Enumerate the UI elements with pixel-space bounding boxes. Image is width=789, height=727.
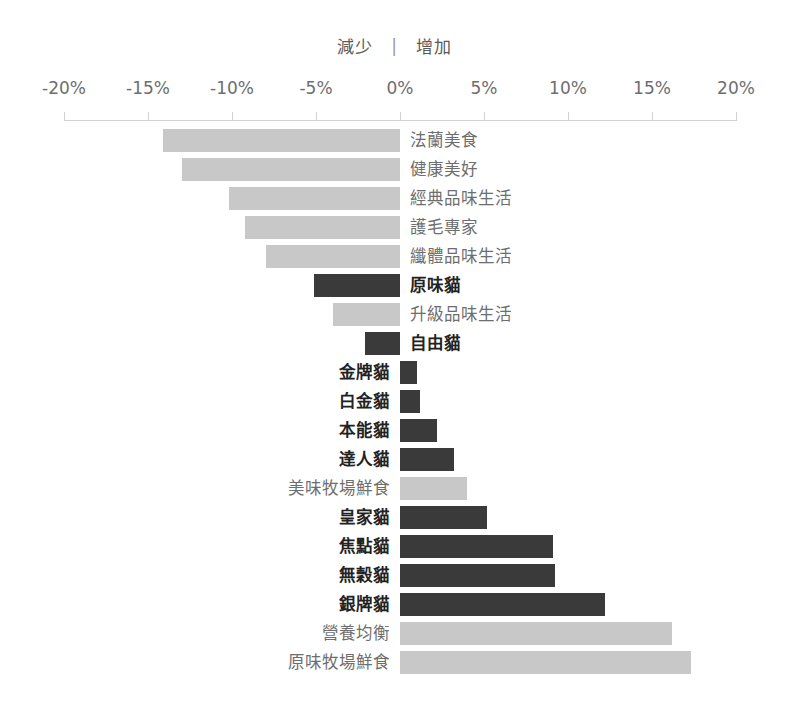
bar-label: 無穀貓 <box>339 564 390 587</box>
bar-row[interactable]: 金牌貓 <box>0 358 789 387</box>
direction-caption: 減少 | 增加 <box>0 33 789 58</box>
bar-label: 營養均衡 <box>322 622 390 645</box>
bar[interactable] <box>400 361 417 384</box>
bar-label: 銀牌貓 <box>339 593 390 616</box>
bar[interactable] <box>182 158 400 181</box>
axis-tick-mark <box>736 112 737 121</box>
bar-row[interactable]: 纖體品味生活 <box>0 242 789 271</box>
bar[interactable] <box>400 419 437 442</box>
bar-label: 白金貓 <box>339 390 390 413</box>
axis-tick-label: -20% <box>42 78 86 98</box>
bar-row[interactable]: 美味牧場鮮食 <box>0 474 789 503</box>
axis-tick-label: 20% <box>717 78 755 98</box>
chart-root: 減少 | 增加 -20%-15%-10%-5%0%5%10%15%20% 法蘭美… <box>0 0 789 727</box>
bar-row[interactable]: 無穀貓 <box>0 561 789 590</box>
bar[interactable] <box>266 245 400 268</box>
bar-row[interactable]: 原味牧場鮮食 <box>0 648 789 677</box>
axis-tick-mark <box>652 112 653 121</box>
bar-label: 原味貓 <box>410 274 461 297</box>
bar[interactable] <box>333 303 400 326</box>
bar-row[interactable]: 護毛專家 <box>0 213 789 242</box>
bar[interactable] <box>400 622 672 645</box>
bar-row[interactable]: 皇家貓 <box>0 503 789 532</box>
bar[interactable] <box>245 216 400 239</box>
axis-tick-mark <box>568 112 569 121</box>
bar-rows: 法蘭美食健康美好經典品味生活護毛專家纖體品味生活原味貓升級品味生活自由貓金牌貓白… <box>0 126 789 677</box>
bar-label: 健康美好 <box>410 158 478 181</box>
bar-label: 焦點貓 <box>339 535 390 558</box>
bar-label: 護毛專家 <box>410 216 478 239</box>
bar-label: 皇家貓 <box>339 506 390 529</box>
bar-row[interactable]: 升級品味生活 <box>0 300 789 329</box>
bar[interactable] <box>400 390 420 413</box>
bar-row[interactable]: 原味貓 <box>0 271 789 300</box>
bar-label: 自由貓 <box>410 332 461 355</box>
bar[interactable] <box>400 593 605 616</box>
bar[interactable] <box>163 129 400 152</box>
bar[interactable] <box>400 535 553 558</box>
bar-label: 升級品味生活 <box>410 303 512 326</box>
axis-tick-mark <box>148 112 149 121</box>
bar-row[interactable]: 本能貓 <box>0 416 789 445</box>
axis-tick-label: 5% <box>471 78 498 98</box>
bar[interactable] <box>365 332 400 355</box>
caption-separator: | <box>379 36 410 56</box>
bar-row[interactable]: 達人貓 <box>0 445 789 474</box>
bar-label: 纖體品味生活 <box>410 245 512 268</box>
bar-row[interactable]: 營養均衡 <box>0 619 789 648</box>
axis-tick-mark <box>232 112 233 121</box>
axis-tick-mark <box>64 112 65 121</box>
x-axis-tick-labels: -20%-15%-10%-5%0%5%10%15%20% <box>0 78 789 102</box>
axis-tick-label: -10% <box>210 78 254 98</box>
bar-row[interactable]: 焦點貓 <box>0 532 789 561</box>
bar-label: 美味牧場鮮食 <box>288 477 390 500</box>
axis-tick-mark <box>484 112 485 121</box>
bar[interactable] <box>400 651 691 674</box>
caption-decrease: 減少 <box>337 33 373 58</box>
bar-row[interactable]: 銀牌貓 <box>0 590 789 619</box>
axis-tick-label: 0% <box>387 78 414 98</box>
axis-tick-mark <box>400 112 401 121</box>
bar-label: 經典品味生活 <box>410 187 512 210</box>
caption-increase: 增加 <box>416 33 452 58</box>
bar-row[interactable]: 法蘭美食 <box>0 126 789 155</box>
bar[interactable] <box>400 506 487 529</box>
bar-row[interactable]: 自由貓 <box>0 329 789 358</box>
axis-tick-label: 10% <box>549 78 587 98</box>
bar[interactable] <box>229 187 400 210</box>
bar[interactable] <box>314 274 400 297</box>
axis-tick-label: -5% <box>299 78 332 98</box>
bar-label: 本能貓 <box>339 419 390 442</box>
bar[interactable] <box>400 564 555 587</box>
bar-label: 達人貓 <box>339 448 390 471</box>
bar-row[interactable]: 健康美好 <box>0 155 789 184</box>
bar[interactable] <box>400 477 467 500</box>
axis-tick-mark <box>316 112 317 121</box>
axis-tick-label: 15% <box>633 78 671 98</box>
bar-label: 法蘭美食 <box>410 129 478 152</box>
bar[interactable] <box>400 448 454 471</box>
bar-label: 原味牧場鮮食 <box>288 651 390 674</box>
bar-row[interactable]: 經典品味生活 <box>0 184 789 213</box>
bar-row[interactable]: 白金貓 <box>0 387 789 416</box>
axis-tick-label: -15% <box>126 78 170 98</box>
bar-label: 金牌貓 <box>339 361 390 384</box>
